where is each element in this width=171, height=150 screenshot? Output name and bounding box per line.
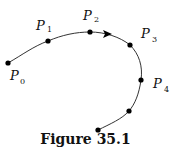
point-p1: [45, 38, 50, 43]
label-p4: P 4: [152, 76, 169, 94]
direction-arrow-icon: [103, 30, 112, 38]
label-p2: P 2: [82, 8, 99, 24]
point-p4: [138, 77, 143, 82]
label-p1: P 1: [35, 18, 52, 34]
curve-diagram: P 0 P 1 P 2 P 3 P 4: [0, 0, 171, 150]
point-p2: [87, 29, 92, 34]
label-p3: P 3: [140, 26, 157, 44]
svg-text:P: P: [140, 26, 150, 41]
svg-text:3: 3: [152, 35, 157, 44]
point-p0: [5, 60, 10, 65]
point-unlabeled-1: [126, 108, 131, 113]
label-p0: P 0: [9, 68, 25, 86]
svg-text:1: 1: [47, 25, 52, 34]
svg-text:P: P: [82, 8, 92, 23]
figure-caption: Figure 35.1: [0, 131, 171, 147]
svg-text:0: 0: [20, 77, 25, 86]
svg-text:4: 4: [164, 85, 169, 94]
svg-text:P: P: [35, 18, 45, 33]
svg-text:P: P: [9, 68, 19, 83]
svg-text:P: P: [152, 76, 162, 91]
svg-text:2: 2: [94, 15, 99, 24]
point-p3: [127, 42, 132, 47]
curve-path: [8, 32, 142, 130]
